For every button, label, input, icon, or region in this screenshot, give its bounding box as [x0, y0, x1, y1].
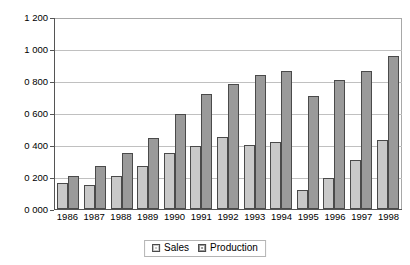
x-axis-tick-label: 1997 [348, 212, 375, 222]
bar-sales-1986 [57, 183, 68, 209]
bar-production-1992 [228, 84, 239, 209]
y-axis-tick-label: 0 400 [0, 141, 48, 151]
legend-entry-sales[interactable]: Sales [152, 243, 189, 253]
x-axis-tick-label: 1998 [375, 212, 402, 222]
bar-group [241, 18, 268, 209]
bar-sales-1991 [190, 146, 201, 209]
bar-production-1986 [68, 176, 79, 209]
bar-group [188, 18, 215, 209]
chart-legend: SalesProduction [144, 240, 266, 257]
bar-sales-1995 [297, 190, 308, 209]
bar-group [374, 18, 401, 209]
y-axis-tick [50, 210, 54, 211]
bar-production-1994 [281, 71, 292, 209]
bar-sales-1987 [84, 185, 95, 209]
bar-group [55, 18, 82, 209]
bar-group [161, 18, 188, 209]
x-axis-tick-label: 1992 [215, 212, 242, 222]
bar-group [294, 18, 321, 209]
bar-production-1990 [175, 114, 186, 209]
bar-sales-1998 [377, 140, 388, 209]
bar-sales-1997 [350, 160, 361, 209]
bar-sales-1993 [244, 145, 255, 209]
y-axis-tick-label: 1 000 [0, 45, 48, 55]
x-axis-tick-label: 1987 [81, 212, 108, 222]
bar-production-1988 [122, 153, 133, 209]
x-axis-tick-label: 1993 [241, 212, 268, 222]
bar-production-1987 [95, 166, 106, 209]
x-axis-tick-label: 1995 [295, 212, 322, 222]
bar-production-1993 [255, 75, 266, 209]
x-axis-tick-label: 1994 [268, 212, 295, 222]
bar-sales-1994 [270, 142, 281, 209]
legend-swatch-icon [198, 244, 206, 252]
plot-area [54, 18, 402, 210]
bar-production-1989 [148, 138, 159, 209]
legend-label: Production [210, 243, 258, 253]
bar-production-1991 [201, 94, 212, 209]
bar-group [268, 18, 295, 209]
bar-group [215, 18, 242, 209]
x-axis-tick-label: 1990 [161, 212, 188, 222]
bar-chart: 0 0000 2000 4000 6000 8001 0001 200 1986… [0, 0, 410, 265]
bar-group [135, 18, 162, 209]
bar-production-1996 [334, 80, 345, 209]
bar-group [82, 18, 109, 209]
legend-entry-production[interactable]: Production [198, 243, 258, 253]
y-axis-tick-label: 0 600 [0, 109, 48, 119]
bar-group [108, 18, 135, 209]
legend-swatch-icon [152, 244, 160, 252]
bar-sales-1989 [137, 166, 148, 209]
x-axis-tick-label: 1988 [108, 212, 135, 222]
x-axis-tick-label: 1991 [188, 212, 215, 222]
bar-production-1998 [388, 56, 399, 209]
bar-group [348, 18, 375, 209]
bar-groups [55, 18, 401, 209]
y-axis-tick-label: 0 200 [0, 173, 48, 183]
x-axis-labels: 1986198719881989199019911992199319941995… [54, 212, 402, 222]
y-axis-tick-label: 0 000 [0, 205, 48, 215]
y-axis-tick-label: 0 800 [0, 77, 48, 87]
bar-production-1995 [308, 96, 319, 209]
x-axis-tick-label: 1996 [322, 212, 349, 222]
x-axis-line [54, 209, 402, 210]
legend-label: Sales [164, 243, 189, 253]
x-axis-tick-label: 1986 [54, 212, 81, 222]
bar-sales-1990 [164, 153, 175, 209]
bar-group [321, 18, 348, 209]
bar-production-1997 [361, 71, 372, 209]
x-axis-tick-label: 1989 [134, 212, 161, 222]
bar-sales-1992 [217, 137, 228, 209]
bar-sales-1988 [111, 176, 122, 209]
y-axis-tick-label: 1 200 [0, 13, 48, 23]
bar-sales-1996 [323, 178, 334, 209]
